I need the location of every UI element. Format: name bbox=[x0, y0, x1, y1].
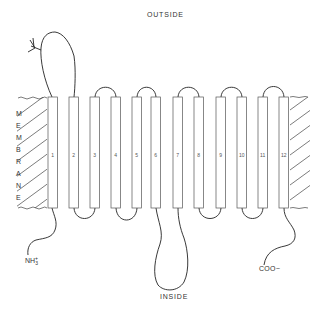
helix-4-number: 4 bbox=[114, 152, 117, 158]
transmembrane-helices bbox=[48, 97, 289, 208]
extracellular-loops bbox=[28, 32, 284, 97]
membrane-right-hatch bbox=[290, 94, 312, 200]
glycosylation-branch-icon bbox=[28, 38, 41, 52]
loop-3-4 bbox=[95, 87, 116, 97]
loop-4-5 bbox=[116, 208, 137, 220]
c-terminus-label: COO− bbox=[259, 265, 280, 272]
loop-7-8 bbox=[178, 87, 199, 97]
membrane-left-top-edge bbox=[18, 97, 47, 99]
membrane-letter: M bbox=[16, 134, 22, 141]
loop-8-9 bbox=[199, 208, 221, 219]
helix-5-number: 5 bbox=[135, 152, 138, 158]
helix-12-number: 12 bbox=[281, 152, 287, 158]
intracellular-loops bbox=[28, 208, 295, 290]
membrane-letter: E bbox=[16, 194, 21, 201]
membrane-letter: N bbox=[16, 182, 21, 189]
helix-7-number: 7 bbox=[176, 152, 179, 158]
helix-6-number: 6 bbox=[154, 152, 157, 158]
helix-3-number: 3 bbox=[93, 152, 96, 158]
loop-11-12 bbox=[263, 87, 284, 98]
loop-10-11 bbox=[242, 208, 263, 219]
loop-5-6 bbox=[137, 87, 156, 97]
membrane-left-bottom-edge bbox=[18, 207, 47, 209]
n-terminus-sup: + bbox=[35, 255, 38, 261]
membrane-letter: A bbox=[16, 170, 21, 177]
loop-6-7 bbox=[155, 208, 188, 290]
membrane-topology-diagram: 1 2 3 4 5 6 7 8 9 10 11 12 OUTSIDE INSID… bbox=[0, 0, 323, 315]
loop-9-10 bbox=[221, 87, 242, 97]
helix-numbers: 1 2 3 4 5 6 7 8 9 10 11 12 bbox=[51, 152, 286, 158]
outside-label: OUTSIDE bbox=[147, 11, 184, 18]
membrane-letter: B bbox=[16, 146, 21, 153]
helix-2-number: 2 bbox=[72, 152, 75, 158]
n-terminus-label: NH3+ bbox=[25, 257, 41, 264]
helix-10-number: 10 bbox=[239, 152, 245, 158]
helix-8-number: 8 bbox=[197, 152, 200, 158]
membrane-right-top-edge bbox=[290, 97, 308, 98]
helix-11-number: 11 bbox=[260, 152, 265, 158]
n-terminus-tail bbox=[28, 208, 56, 255]
helix-1-number: 1 bbox=[51, 152, 54, 158]
membrane-letter: E bbox=[16, 122, 21, 129]
membrane-letter: M bbox=[16, 110, 22, 117]
c-terminus-tail bbox=[264, 208, 295, 265]
membrane-right-bottom-edge bbox=[290, 208, 308, 209]
helix-9-number: 9 bbox=[219, 152, 222, 158]
loop-2-3 bbox=[74, 208, 95, 219]
loop-1-2 bbox=[41, 32, 75, 97]
membrane-letter: R bbox=[16, 158, 21, 165]
inside-label: INSIDE bbox=[160, 293, 188, 300]
n-terminus-main: NH bbox=[25, 257, 35, 264]
